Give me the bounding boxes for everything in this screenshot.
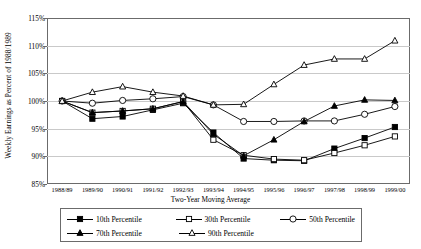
legend-item-10th-percentile[interactable]: 10th Percentile	[67, 212, 176, 226]
open-circle-marker	[331, 118, 337, 124]
series-10th-percentile	[60, 98, 398, 163]
open-square-marker	[392, 134, 397, 139]
series-line	[62, 101, 395, 161]
open-circle-icon	[280, 214, 306, 224]
open-triangle-marker	[241, 101, 247, 107]
x-axis-tick-label: 1990/91	[112, 186, 133, 193]
open-triangle-marker	[271, 81, 277, 87]
open-circle-marker	[241, 118, 247, 124]
filled-square-marker	[90, 116, 95, 121]
x-axis-tick-label: 1994/95	[233, 186, 254, 193]
filled-square-marker	[120, 114, 125, 119]
open-triangle-icon	[179, 228, 205, 238]
open-circle-marker	[120, 97, 126, 103]
open-square-marker	[271, 157, 276, 162]
legend-row-1: 10th Percentile 30th Percentile 50th Per…	[67, 212, 355, 226]
series-line	[62, 97, 395, 122]
legend-key-marker	[75, 214, 85, 224]
legend-item-label: 30th Percentile	[205, 215, 251, 224]
open-triangle-marker	[189, 230, 195, 236]
open-circle-marker	[89, 100, 95, 106]
x-axis-tick-label: 1988/89	[52, 186, 73, 193]
legend-row-2: 70th Percentile 90th Percentile	[67, 226, 355, 240]
legend-item-70th-percentile[interactable]: 70th Percentile	[67, 226, 179, 240]
open-square-marker	[362, 143, 367, 148]
chart-figure: Weekly Earnings as Percent of 1988/1989 …	[0, 0, 421, 249]
legend-key-marker	[184, 214, 194, 224]
open-square-marker	[186, 216, 191, 221]
open-circle-marker	[362, 111, 368, 117]
open-triangle-marker	[392, 37, 398, 43]
legend-item-label: 10th Percentile	[96, 215, 142, 224]
plot-area	[47, 18, 410, 184]
series-layer	[47, 18, 410, 184]
legend-item-label: 50th Percentile	[309, 215, 355, 224]
legend-item-30th-percentile[interactable]: 30th Percentile	[176, 212, 281, 226]
open-square-marker	[332, 150, 337, 155]
x-axis-tick-label: 1998/99	[354, 186, 375, 193]
open-square-icon	[176, 214, 202, 224]
legend-key-marker	[75, 228, 85, 238]
legend-key-marker	[187, 228, 197, 238]
x-axis-tick-label: 1991/92	[142, 186, 163, 193]
legend-item-label: 70th Percentile	[96, 229, 142, 238]
open-triangle-marker	[331, 56, 337, 62]
x-axis-tick-label: 1993/94	[203, 186, 224, 193]
open-triangle-marker	[120, 83, 126, 89]
series-70th-percentile	[59, 97, 398, 159]
open-circle-marker	[290, 216, 296, 222]
chart-legend: 10th Percentile 30th Percentile 50th Per…	[60, 208, 362, 242]
legend-key-marker	[288, 214, 298, 224]
legend-item-label: 90th Percentile	[208, 229, 254, 238]
series-50th-percentile	[59, 93, 398, 124]
filled-triangle-marker	[271, 136, 277, 142]
open-triangle-marker	[362, 56, 368, 62]
series-line	[62, 101, 395, 160]
x-axis-tick-label: 1995/96	[263, 186, 284, 193]
filled-triangle-marker	[77, 230, 83, 236]
x-axis-title: Two-Year Moving Average	[0, 195, 421, 204]
x-axis-tick-label: 1999/00	[384, 186, 405, 193]
legend-item-50th-percentile[interactable]: 50th Percentile	[280, 212, 355, 226]
filled-square-marker	[392, 124, 397, 129]
x-axis-tick-label: 1997/98	[324, 186, 345, 193]
open-square-marker	[302, 158, 307, 163]
x-axis-tick-label: 1996/97	[294, 186, 315, 193]
filled-triangle-icon	[67, 228, 93, 238]
filled-square-marker	[77, 216, 82, 221]
legend-item-90th-percentile[interactable]: 90th Percentile	[179, 226, 287, 240]
x-axis-tick-label: 1989/90	[82, 186, 103, 193]
filled-square-icon	[67, 214, 93, 224]
open-circle-marker	[271, 118, 277, 124]
series-90th-percentile	[59, 37, 398, 107]
y-axis-title: Weekly Earnings as Percent of 1988/1989	[0, 0, 16, 190]
open-circle-marker	[150, 96, 156, 102]
open-square-marker	[211, 137, 216, 142]
filled-square-marker	[362, 135, 367, 140]
series-line	[62, 41, 395, 105]
filled-triangle-marker	[362, 97, 368, 103]
y-axis-title-text: Weekly Earnings as Percent of 1988/1989	[4, 32, 13, 158]
x-axis-tick-label: 1992/93	[173, 186, 194, 193]
y-axis-tick-mark	[43, 184, 47, 185]
open-circle-marker	[392, 103, 398, 109]
series-30th-percentile	[60, 98, 398, 162]
